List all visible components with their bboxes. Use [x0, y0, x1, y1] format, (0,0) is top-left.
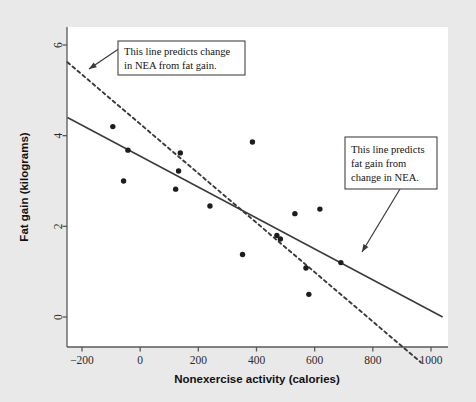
x-tick-label: 800 [364, 354, 382, 366]
x-axis-title: Nonexercise activity (calories) [174, 373, 340, 385]
callout-text-line: in NEA from fat gain. [124, 60, 217, 71]
callout-text-line: This line predicts [351, 144, 425, 155]
data-point [173, 186, 178, 191]
figure-container: −200020040060080010000246 This line pred… [0, 0, 476, 402]
x-tick-label: 0 [137, 354, 143, 366]
x-tick-label: 600 [306, 354, 324, 366]
data-point [176, 168, 181, 173]
scatter-plot-chart: −200020040060080010000246 This line pred… [0, 0, 476, 402]
data-point [125, 147, 130, 152]
x-tick-label: 1000 [420, 354, 443, 366]
y-tick-label: 0 [52, 314, 64, 320]
x-tick-label: 200 [190, 354, 208, 366]
y-tick-label: 2 [52, 223, 64, 229]
y-axis-title: Fat gain (kilograms) [18, 132, 30, 241]
y-tick-label: 6 [52, 42, 64, 48]
data-point [121, 178, 126, 183]
data-point [240, 252, 245, 257]
data-point [278, 236, 283, 241]
data-point [207, 203, 212, 208]
data-point [317, 206, 322, 211]
data-point [338, 260, 343, 265]
data-point [250, 139, 255, 144]
x-tick-label: −200 [70, 354, 94, 366]
callout-text-line: change in NEA. [351, 172, 419, 183]
data-point [178, 150, 183, 155]
data-point [292, 211, 297, 216]
data-point [306, 292, 311, 297]
callout-text-line: This line predicts change [124, 46, 230, 57]
data-point [303, 265, 308, 270]
x-tick-label: 400 [248, 354, 266, 366]
y-tick-label: 4 [52, 133, 64, 139]
data-point [110, 124, 115, 129]
callout-text-line: fat gain from [351, 158, 407, 169]
